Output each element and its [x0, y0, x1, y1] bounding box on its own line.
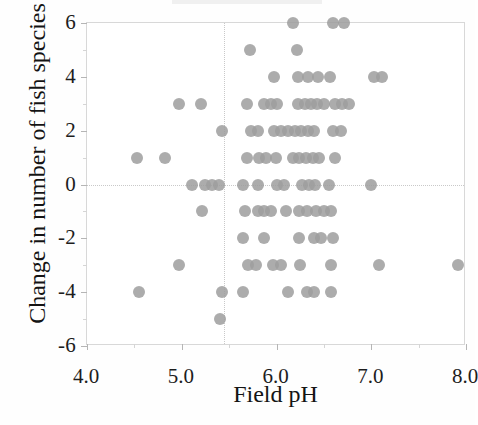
data-point [282, 286, 294, 298]
data-point [258, 232, 270, 244]
data-point [313, 152, 325, 164]
plot-area [86, 22, 465, 345]
x-minor-tick [134, 344, 135, 348]
data-point [343, 98, 355, 110]
data-point [294, 259, 306, 271]
data-point [324, 71, 336, 83]
y-axis-label: Change in number of fish species [24, 0, 51, 329]
data-point [270, 152, 282, 164]
data-point [159, 152, 171, 164]
data-point [293, 232, 305, 244]
y-tick-label: 6 [65, 10, 76, 35]
x-tick-mark [182, 344, 183, 350]
data-point [280, 205, 292, 217]
x-axis-label: Field pH [86, 381, 465, 408]
x-tick-mark [87, 344, 88, 350]
data-point [325, 259, 337, 271]
y-tick-label: 4 [65, 63, 76, 88]
data-point [195, 98, 207, 110]
data-point [216, 125, 228, 137]
data-point [268, 71, 280, 83]
data-point [325, 205, 337, 217]
y-tick-label: 0 [65, 171, 76, 196]
data-point [252, 179, 264, 191]
y-tick-label: -2 [58, 225, 76, 250]
data-point [271, 98, 283, 110]
x-minor-tick [324, 344, 325, 348]
data-point [131, 152, 143, 164]
data-point [376, 71, 388, 83]
data-point [291, 44, 303, 56]
data-point [309, 179, 321, 191]
data-point [196, 205, 208, 217]
data-point [241, 152, 253, 164]
data-point [308, 286, 320, 298]
x-minor-tick [229, 344, 230, 348]
scan-artifact [172, 0, 322, 4]
data-point [338, 17, 350, 29]
data-point [312, 71, 324, 83]
data-point [216, 286, 228, 298]
data-point [237, 286, 249, 298]
data-point [244, 44, 256, 56]
data-point [214, 313, 226, 325]
data-point [318, 98, 330, 110]
data-point [323, 179, 335, 191]
data-points-layer [87, 23, 464, 344]
data-point [278, 179, 290, 191]
y-tick-label: -4 [58, 279, 76, 304]
data-point [329, 152, 341, 164]
data-point [327, 232, 339, 244]
data-point [239, 205, 251, 217]
data-point [133, 286, 145, 298]
data-point [265, 205, 277, 217]
data-point [287, 17, 299, 29]
data-point [186, 179, 198, 191]
y-tick-label: -6 [58, 333, 76, 358]
data-point [173, 98, 185, 110]
data-point [237, 179, 249, 191]
data-point [308, 125, 320, 137]
x-minor-tick [419, 344, 420, 348]
x-tick-mark [371, 344, 372, 350]
data-point [452, 259, 464, 271]
x-tick-mark [466, 344, 467, 350]
data-point [365, 179, 377, 191]
data-point [237, 232, 249, 244]
data-point [275, 259, 287, 271]
x-tick-mark [277, 344, 278, 350]
data-point [335, 125, 347, 137]
data-point [373, 259, 385, 271]
data-point [325, 286, 337, 298]
data-point [250, 259, 262, 271]
data-point [252, 125, 264, 137]
data-point [241, 98, 253, 110]
data-point [173, 259, 185, 271]
data-point [315, 232, 327, 244]
y-tick-label: 2 [65, 117, 76, 142]
data-point [213, 179, 225, 191]
